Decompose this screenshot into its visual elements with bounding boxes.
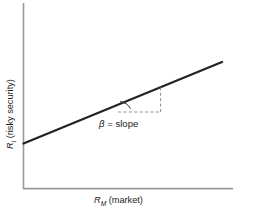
security-market-line-figure: β = slope RM (market) Ri (risky security… [0,0,256,209]
chart-canvas: β = slope RM (market) Ri (risky security… [0,0,256,209]
beta-equals-slope-text: = slope [104,118,138,129]
y-axis-label: Ri (risky security) [5,79,17,149]
y-axis-text: (risky security) [5,79,15,141]
chart-background [0,0,256,209]
x-axis-text: (market) [106,195,143,205]
beta-slope-label: β = slope [98,118,138,129]
